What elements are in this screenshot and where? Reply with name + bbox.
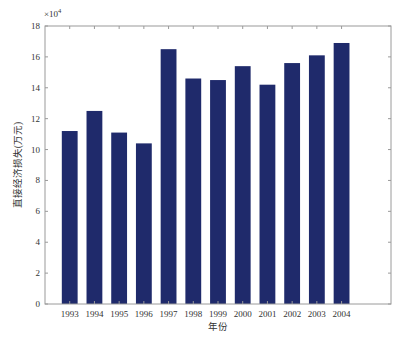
y-tick-label: 10 (31, 145, 41, 155)
x-tick-label: 2001 (258, 309, 276, 319)
bar-2002 (284, 63, 300, 304)
bar-2001 (260, 85, 276, 304)
bar-1998 (185, 79, 201, 304)
y-tick-label: 12 (31, 114, 40, 124)
bar-1996 (136, 143, 152, 304)
bar-2000 (235, 66, 251, 304)
bar-1997 (161, 49, 177, 304)
bar-1993 (62, 131, 78, 304)
bar-1995 (111, 133, 127, 304)
x-tick-label: 2003 (308, 309, 327, 319)
y-tick-label: 8 (36, 175, 41, 185)
x-tick-label: 1995 (110, 309, 129, 319)
y-tick-label: 6 (36, 206, 41, 216)
x-tick-label: 1998 (184, 309, 203, 319)
y-tick-label: 2 (36, 268, 41, 278)
y-tick-label: 0 (36, 299, 41, 309)
bar-2004 (334, 43, 350, 304)
y-axis-label: 直接经济损失(万元) (12, 122, 24, 208)
bar-1994 (87, 111, 103, 304)
y-tick-label: 18 (31, 21, 41, 31)
x-tick-label: 1993 (61, 309, 80, 319)
y-tick-label: 4 (36, 237, 41, 247)
x-tick-label: 1994 (85, 309, 104, 319)
bar-2003 (309, 55, 325, 304)
x-tick-label: 1997 (160, 309, 179, 319)
x-axis-label: 年份 (208, 321, 228, 332)
x-tick-label: 2000 (234, 309, 253, 319)
y-axis-multiplier-label: ×104 (44, 7, 62, 19)
bar-chart: 024681012141618 199319941995199619971998… (0, 0, 402, 345)
bar-1999 (210, 80, 226, 304)
x-axis-ticks: 1993199419951996199719981999200020012002… (61, 26, 351, 319)
x-tick-label: 2002 (283, 309, 301, 319)
y-tick-label: 14 (31, 83, 41, 93)
x-tick-label: 1999 (209, 309, 228, 319)
x-tick-label: 1996 (135, 309, 154, 319)
bars-group (62, 43, 350, 304)
y-tick-label: 16 (31, 52, 41, 62)
x-tick-label: 2004 (333, 309, 352, 319)
